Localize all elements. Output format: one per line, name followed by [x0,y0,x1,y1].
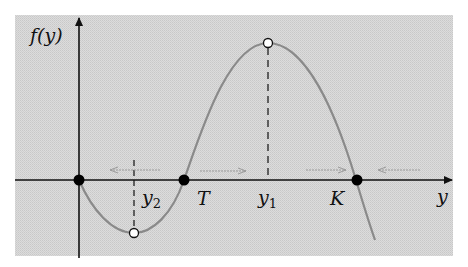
maximum-open-circle [264,39,273,48]
phase-diagram: f(y) y y2 T y1 K [0,0,468,267]
origin-equilibrium-dot [74,175,85,186]
threshold-label: T [197,187,211,209]
capacity-label: K [329,187,346,209]
y-axis-label: f(y) [28,24,63,46]
capacity-equilibrium-dot [352,175,363,186]
minimum-open-circle [130,229,139,238]
threshold-equilibrium-dot [179,175,190,186]
background-panel [15,15,453,256]
x-axis-label: y [436,185,448,207]
